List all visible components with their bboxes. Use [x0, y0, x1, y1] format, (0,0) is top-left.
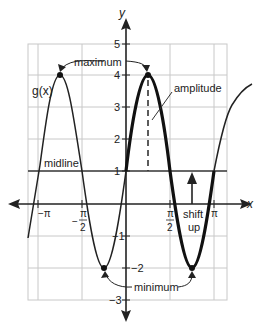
midline-label: midline: [44, 157, 79, 169]
shift-label: shift: [183, 208, 203, 220]
svg-text:π: π: [80, 208, 87, 219]
y-tick-3: 3: [114, 101, 120, 113]
svg-text:2: 2: [167, 222, 173, 233]
minimum-point: [189, 265, 195, 271]
y-tick-2: 2: [114, 133, 120, 145]
maximum-label: maximum: [74, 56, 122, 68]
y-tick-neg2: −2: [131, 262, 144, 274]
y-axis-label: y: [118, 6, 126, 20]
y-tick-neg3: −3: [109, 294, 122, 306]
x-axis-label: x: [246, 197, 254, 211]
amplitude-label: amplitude: [174, 82, 222, 94]
svg-text:2: 2: [80, 222, 86, 233]
shift-up-arrow: [187, 172, 197, 204]
minimum-label: minimum: [134, 281, 179, 293]
minimum-point: [101, 265, 107, 271]
x-tick-pi: π: [211, 208, 218, 219]
maximum-point: [145, 72, 151, 78]
sine-graph: y x g(x) maximum amplitude midline shift…: [0, 0, 259, 330]
function-label: g(x): [32, 84, 53, 98]
up-label: up: [188, 221, 200, 233]
y-tick-4: 4: [114, 69, 120, 81]
svg-text:−: −: [72, 216, 78, 227]
maximum-point: [57, 72, 63, 78]
x-tick-neg-pi: −π: [38, 208, 51, 219]
y-tick-1: 1: [114, 165, 120, 177]
svg-text:π: π: [167, 208, 174, 219]
x-tick-neg-half-pi: − π 2: [72, 208, 87, 233]
y-tick-5: 5: [114, 38, 120, 50]
y-tick-neg1: −1: [112, 230, 125, 242]
curve-thin-right: [214, 84, 252, 171]
